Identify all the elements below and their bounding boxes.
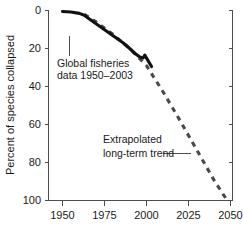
y-tick-label-80: 80 — [29, 156, 41, 168]
chart-canvas: 0 20 40 60 80 100 1950 1975 2000 2025 20… — [0, 0, 243, 234]
x-tick-label-1950: 1950 — [50, 209, 74, 221]
y-tick-label-60: 60 — [29, 118, 41, 130]
chart-figure: 0 20 40 60 80 100 1950 1975 2000 2025 20… — [0, 0, 243, 234]
trend-annotation-line1: Extrapolated — [103, 133, 162, 145]
data-annotation-line1: Global fisheries — [57, 57, 129, 69]
y-tickmarks — [45, 11, 49, 201]
y-axis-title: Percent of species collapsed — [4, 35, 16, 175]
plot-area — [48, 9, 232, 200]
x-tickmarks — [63, 201, 231, 206]
x-tick-label-1975: 1975 — [92, 209, 116, 221]
trend-annotation-line2: long-term trend — [103, 147, 174, 159]
x-tick-label-2000: 2000 — [134, 209, 158, 221]
y-tick-label-20: 20 — [29, 42, 41, 54]
y-tick-label-100: 100 — [23, 194, 41, 206]
y-tick-label-0: 0 — [35, 4, 41, 16]
y-tick-label-40: 40 — [29, 80, 41, 92]
data-annotation-line2: data 1950–2003 — [57, 69, 133, 81]
x-tick-label-2025: 2025 — [176, 209, 200, 221]
x-tick-label-2050: 2050 — [218, 209, 242, 221]
